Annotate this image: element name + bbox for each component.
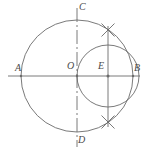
point-e-dot bbox=[107, 75, 110, 78]
label-point-c: C bbox=[79, 2, 86, 12]
geometry-diagram bbox=[0, 0, 146, 153]
geometry-figure-canvas: A B C D O E bbox=[0, 0, 146, 153]
label-point-e: E bbox=[98, 61, 104, 71]
point-a-dot bbox=[20, 75, 22, 77]
label-point-a: A bbox=[15, 63, 21, 73]
label-point-o: O bbox=[67, 61, 74, 71]
label-point-b: B bbox=[134, 63, 140, 73]
label-point-d: D bbox=[78, 135, 85, 145]
point-b-dot bbox=[132, 75, 134, 77]
point-o-dot bbox=[76, 75, 78, 77]
